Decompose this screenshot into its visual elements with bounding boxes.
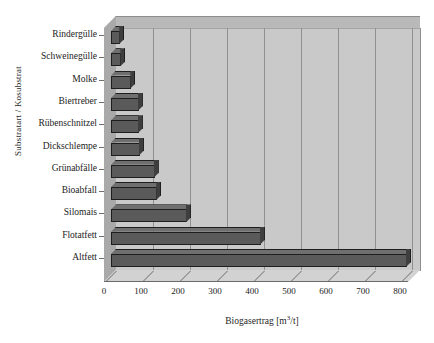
bar <box>111 204 187 217</box>
bar-side-face <box>186 204 191 222</box>
x-axis-title: Biogasertrag [m3/t] <box>104 314 420 326</box>
bar-front-face <box>111 254 407 267</box>
category-label: Schweinegülle <box>0 51 97 62</box>
x-tick-label: 800 <box>393 286 407 296</box>
bar-front-face <box>111 209 187 222</box>
x-axis-title-tail: /t] <box>290 316 298 326</box>
bar <box>111 71 131 84</box>
bar-front-face <box>111 232 261 245</box>
bar-series <box>104 16 420 282</box>
category-label: Bioabfall <box>0 185 97 196</box>
x-axis-title-main: Biogasertrag [m <box>225 316 286 326</box>
bar-side-face <box>156 182 161 200</box>
biogas-yield-bar-chart: Substratart / Kosubstrat RindergülleSchw… <box>0 0 434 343</box>
category-label: Flotatfett <box>0 230 97 241</box>
bar <box>111 26 120 39</box>
bar-front-face <box>111 187 157 200</box>
x-tick-label: 300 <box>208 286 222 296</box>
bar <box>111 227 261 240</box>
bar-side-face <box>138 93 143 111</box>
bar-side-face <box>139 138 144 156</box>
bar-side-face <box>120 48 125 66</box>
category-label: Grünabfälle <box>0 163 97 174</box>
bar-front-face <box>111 120 139 133</box>
category-label: Molke <box>0 74 97 85</box>
bar <box>111 182 157 195</box>
bar-front-face <box>111 31 120 44</box>
x-tick-label: 200 <box>171 286 185 296</box>
bar <box>111 249 407 262</box>
bar-front-face <box>111 53 121 66</box>
x-tick-label: 400 <box>245 286 259 296</box>
bar-front-face <box>111 143 140 156</box>
bar <box>111 93 139 106</box>
category-label: Dickschlempe <box>0 141 97 152</box>
bar <box>111 160 155 173</box>
bar-front-face <box>111 98 139 111</box>
bar-front-face <box>111 76 131 89</box>
category-label: Rindergülle <box>0 29 97 40</box>
bar <box>111 115 139 128</box>
x-tick-label: 100 <box>134 286 148 296</box>
x-tick-label: 700 <box>356 286 370 296</box>
bar <box>111 48 121 61</box>
bar-side-face <box>406 249 411 267</box>
category-label: Rübenschnitzel <box>0 118 97 129</box>
category-label: Altfett <box>0 252 97 263</box>
bar-side-face <box>138 115 143 133</box>
bar-side-face <box>130 71 135 89</box>
bar-side-face <box>119 26 124 44</box>
x-tick-label: 500 <box>282 286 296 296</box>
bar-side-face <box>154 160 159 178</box>
category-label: Silomais <box>0 207 97 218</box>
bar <box>111 138 140 151</box>
bar-front-face <box>111 165 155 178</box>
category-label: Biertreber <box>0 96 97 107</box>
x-axis-tick-labels: 0100200300400500600700800 <box>0 286 434 300</box>
bar-side-face <box>260 227 265 245</box>
y-axis-category-labels: RindergülleSchweinegülleMolkeBiertreberR… <box>0 18 100 282</box>
x-tick-label: 600 <box>319 286 333 296</box>
x-tick-label: 0 <box>102 286 107 296</box>
